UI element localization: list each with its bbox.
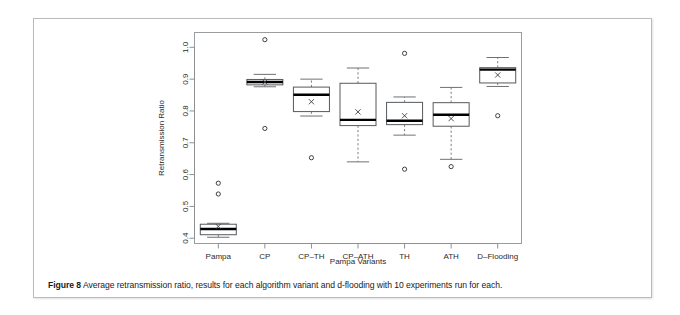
y-tick-label: 0.8 xyxy=(182,105,191,117)
x-tick-label-pampa: Pampa xyxy=(206,252,232,261)
x-tick-label-cp: CP xyxy=(259,252,270,261)
box-ath xyxy=(433,87,469,168)
figure-number: Figure 8 xyxy=(48,280,81,290)
outlier-point xyxy=(449,165,453,169)
y-tick-label: 0.7 xyxy=(182,137,191,149)
outlier-point xyxy=(402,51,406,55)
box-d-flooding xyxy=(480,58,516,118)
outlier-point xyxy=(402,167,406,171)
y-axis-title: Retransmission Ratio xyxy=(157,99,166,176)
chart-canvas: 0.40.50.60.70.80.91.0 PampaCPCP–THCP–ATH… xyxy=(34,19,653,267)
x-tick-label-cp-th: CP–TH xyxy=(298,252,324,261)
y-tick-label: 0.4 xyxy=(182,232,191,244)
figure-caption-text: Average retransmission ratio, results fo… xyxy=(83,280,502,290)
outlier-point xyxy=(263,126,267,130)
y-axis: 0.40.50.60.70.80.91.0 xyxy=(182,41,195,244)
x-tick-label-ath: ATH xyxy=(443,252,459,261)
y-tick-label: 0.6 xyxy=(182,168,191,180)
x-tick-label-d-flooding: D–Flooding xyxy=(477,252,518,261)
y-tick-label: 0.5 xyxy=(182,200,191,212)
figure-card: 0.40.50.60.70.80.91.0 PampaCPCP–THCP–ATH… xyxy=(33,18,652,298)
box-cp-th xyxy=(293,79,329,160)
outlier-point xyxy=(216,181,220,185)
box-pampa xyxy=(200,181,236,237)
outlier-point xyxy=(263,38,267,42)
box-cp-ath xyxy=(340,68,376,162)
box-th xyxy=(387,51,423,171)
outlier-point xyxy=(216,192,220,196)
y-tick-label: 1.0 xyxy=(182,41,191,53)
x-axis-title: Pampa Variants xyxy=(330,257,386,266)
x-tick-label-th: TH xyxy=(399,252,410,261)
box-cp xyxy=(247,38,283,131)
figure-caption: Figure 8 Average retransmission ratio, r… xyxy=(34,279,653,291)
y-tick-label: 0.9 xyxy=(182,73,191,85)
boxplot-series xyxy=(200,38,515,238)
outlier-point xyxy=(496,114,500,118)
plot-frame xyxy=(195,33,522,244)
boxplot-chart: 0.40.50.60.70.80.91.0 PampaCPCP–THCP–ATH… xyxy=(34,19,653,267)
outlier-point xyxy=(309,156,313,160)
